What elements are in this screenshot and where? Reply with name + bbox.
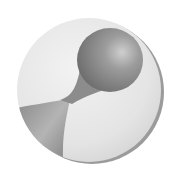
- disc-emblem-icon: [0, 0, 179, 180]
- lower-lobe: [17, 98, 70, 170]
- sphere: [77, 28, 143, 92]
